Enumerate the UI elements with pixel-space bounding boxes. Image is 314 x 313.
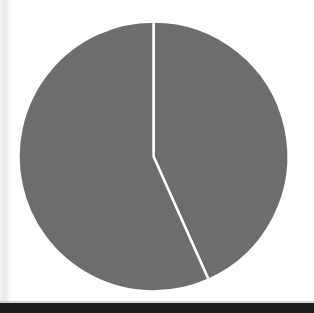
screenshot-canvas (0, 0, 314, 313)
scan-bottom-bar (0, 303, 314, 313)
chart-plot-area (0, 0, 314, 303)
pie-chart (0, 0, 314, 303)
pie-slice-group (18, 22, 288, 292)
